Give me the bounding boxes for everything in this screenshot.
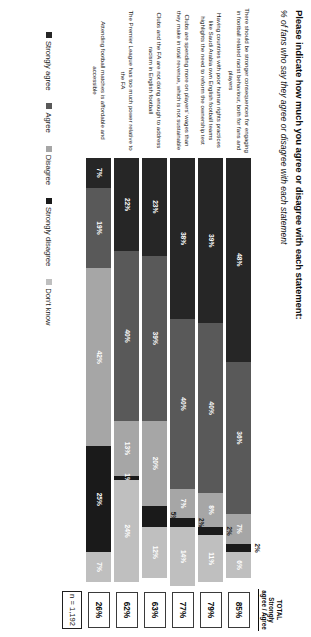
total-value-box: 26%	[88, 592, 110, 628]
segment-value-label: 2%	[254, 543, 261, 552]
legend-label: Strongly agree	[44, 41, 53, 90]
bar-segment-agree: 19%	[86, 188, 111, 269]
segment-value-label: 25%	[96, 493, 103, 506]
chart-title-block: Please indicate how much you agree or di…	[278, 10, 305, 631]
bar-segment-agree: 36%	[226, 362, 251, 515]
bar-segment-don-t-know: 11%	[198, 535, 223, 582]
bar-segment-disagree: 42%	[86, 268, 111, 446]
statement-label: Clubs are spending more on players' wage…	[175, 8, 191, 158]
bar-segment-strongly-agree: 39%	[198, 158, 223, 323]
legend-label: Disagree	[44, 155, 53, 185]
segment-value-label: 7%	[180, 499, 187, 509]
bar-segment-don-t-know: 24%	[114, 480, 139, 582]
total-column-cell: 26%	[88, 589, 110, 631]
bar-row: Attending football matches is affordable…	[86, 8, 111, 631]
legend-swatch-icon	[46, 146, 52, 152]
segment-value-label: 40%	[180, 397, 187, 410]
total-column-header-row: TOTAL Strongly agree / Agree	[258, 8, 278, 631]
total-column-cell: 63%	[144, 589, 166, 631]
statement-label: Clubs and the FA are not doing enough to…	[147, 8, 163, 158]
base-size-box: n = 1,192	[62, 591, 82, 629]
legend-label: Strongly disagree	[44, 207, 53, 266]
segment-value-label: 48%	[236, 253, 243, 266]
segment-value-label: 2%	[226, 526, 233, 535]
segment-value-label: 19%	[96, 221, 103, 234]
bar-row: The Premier League has too much power re…	[114, 8, 139, 631]
segment-value-label: 11%	[208, 552, 215, 565]
bar-row: Clubs and the FA are not doing enough to…	[142, 8, 167, 631]
bar-segment-strongly-disagree: 2%	[198, 527, 223, 535]
chart-subtitle: % of fans who say they agree or disagree…	[278, 10, 288, 631]
bar-segment-don-t-know: 6%	[226, 552, 251, 577]
base-size-row: n = 1,192	[62, 8, 82, 631]
stacked-bar: 23%39%20%5%12%	[142, 158, 167, 582]
segment-value-label: 36%	[236, 431, 243, 444]
segment-value-label: 23%	[152, 200, 159, 213]
segment-value-label: 40%	[124, 329, 131, 342]
legend-item[interactable]: Strongly agree	[44, 32, 53, 90]
segment-value-label: 6%	[236, 560, 243, 570]
bar-segment-agree: 40%	[198, 323, 223, 493]
statement-label: The Premier League has too much power re…	[119, 8, 135, 158]
total-column-cell: 85%	[228, 589, 250, 631]
plot-area: There should be stronger consequences fo…	[86, 8, 251, 631]
bar-segment-agree: 40%	[114, 251, 139, 421]
bar-segment-strongly-disagree: 5%	[142, 506, 167, 527]
bar-segment-don-t-know: 12%	[142, 527, 167, 578]
segment-value-label: 7%	[236, 524, 243, 534]
segment-value-label: 39%	[208, 234, 215, 247]
stacked-bar: 22%40%13%1%24%	[114, 158, 139, 582]
bar-segment-agree: 39%	[142, 256, 167, 421]
bar-segment-don-t-know: 7%	[86, 552, 111, 582]
statement-label: There should be stronger consequences fo…	[227, 8, 250, 158]
bar-row: Clubs are spending more on players' wage…	[170, 8, 195, 631]
segment-value-label: 8%	[208, 505, 215, 515]
segment-value-label: 13%	[124, 442, 131, 455]
page-title: Please indicate how much you agree or di…	[294, 10, 305, 631]
stacked-bar: 7%19%42%25%7%	[86, 158, 111, 582]
segment-value-label: 7%	[96, 562, 103, 572]
legend-item[interactable]: Don't know	[44, 279, 53, 325]
legend-swatch-icon	[46, 279, 52, 285]
bar-segment-strongly-disagree: 2%	[226, 544, 251, 552]
legend-swatch-icon	[46, 32, 52, 38]
bar-segment-don-t-know: 14%	[170, 527, 195, 586]
bar-row: Having countries with poor human rights …	[198, 8, 223, 631]
bar-segment-disagree: 20%	[142, 421, 167, 506]
bar-segment-strongly-agree: 7%	[86, 158, 111, 188]
segment-value-label: 24%	[124, 524, 131, 537]
legend-item[interactable]: Strongly disagree	[44, 198, 53, 266]
segment-value-label: 7%	[96, 168, 103, 178]
segment-value-label: 39%	[152, 332, 159, 345]
segment-value-label: 42%	[96, 351, 103, 364]
total-value-box: 62%	[116, 592, 138, 628]
legend-label: Don't know	[44, 288, 53, 325]
bar-row: There should be stronger consequences fo…	[226, 8, 251, 631]
total-value-box: 63%	[144, 592, 166, 628]
legend-item[interactable]: Disagree	[44, 146, 53, 185]
total-column-cell: 77%	[172, 589, 194, 631]
total-column-cell: 79%	[200, 589, 222, 631]
chart-legend: Strongly agreeAgreeDisagreeStrongly disa…	[44, 32, 53, 631]
bar-segment-strongly-agree: 38%	[170, 158, 195, 319]
legend-swatch-icon	[46, 198, 52, 204]
bar-segment-strongly-agree: 48%	[226, 158, 251, 362]
total-column-cell: 62%	[116, 589, 138, 631]
bar-segment-agree: 40%	[170, 319, 195, 489]
segment-value-label: 5%	[170, 512, 177, 521]
total-column-header: TOTAL Strongly agree / Agree	[258, 589, 282, 631]
segment-value-label: 20%	[152, 457, 159, 470]
chart-rotation-frame: Please indicate how much you agree or di…	[0, 0, 311, 637]
bar-segment-strongly-agree: 22%	[114, 158, 139, 251]
legend-item[interactable]: Agree	[44, 103, 53, 132]
bar-segment-strongly-agree: 23%	[142, 158, 167, 256]
total-value-box: 79%	[200, 592, 222, 628]
bar-segment-strongly-disagree: 25%	[86, 446, 111, 552]
segment-value-label: 22%	[124, 198, 131, 211]
base-size-column: n = 1,192	[62, 589, 82, 631]
bar-segment-disagree: 13%	[114, 421, 139, 476]
segment-value-label: 38%	[180, 232, 187, 245]
segment-value-label: 40%	[208, 402, 215, 415]
segment-value-label: 2%	[198, 518, 205, 527]
segment-value-label: 12%	[152, 546, 159, 559]
